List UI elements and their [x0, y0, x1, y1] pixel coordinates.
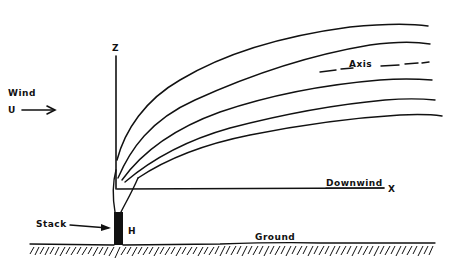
ground-hatching	[30, 246, 433, 258]
downwind-label: Downwind	[326, 178, 383, 188]
z-axis: Z	[112, 43, 119, 189]
plume-inner-lower	[125, 99, 435, 182]
plume-inner-upper	[118, 42, 430, 178]
wind-arrow-icon	[22, 106, 55, 114]
wind-symbol-label: U	[8, 105, 16, 115]
plume-outer-lower	[138, 115, 442, 178]
ground-label: Ground	[255, 232, 295, 242]
plume-diagram: Wind U Z Downwind X Axis	[0, 0, 467, 276]
x-axis: Downwind X	[117, 178, 395, 194]
axis-label: Axis	[349, 59, 372, 69]
stack-body	[114, 212, 123, 245]
ground: Ground	[30, 232, 435, 258]
stack-arrow-icon	[70, 224, 111, 231]
z-axis-label: Z	[112, 43, 119, 53]
stack-height-label: H	[128, 226, 136, 236]
stack-label: Stack	[36, 219, 67, 229]
x-axis-label: X	[388, 184, 395, 194]
plume-centerline: Axis	[320, 59, 429, 72]
wind-indicator: Wind U	[8, 88, 55, 115]
wind-label: Wind	[8, 88, 36, 98]
stack: H Stack	[36, 212, 136, 245]
